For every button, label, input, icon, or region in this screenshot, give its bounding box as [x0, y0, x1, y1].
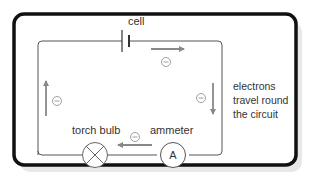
side-note-line-1: electrons [233, 80, 276, 92]
electron-icon [197, 94, 206, 103]
side-note-line-3: the circuit [233, 108, 278, 120]
cell-label: cell [128, 15, 145, 27]
torch-bulb-label: torch bulb [72, 124, 120, 136]
electron-icon [162, 58, 171, 67]
electron-icon [53, 97, 62, 106]
ammeter-label: ammeter [150, 124, 194, 136]
torch-bulb-symbol [83, 143, 108, 168]
ammeter-symbol-letter: A [169, 149, 177, 161]
circuit-diagram: cell torch bulb A ammeter [0, 0, 311, 182]
electron-icon [131, 133, 140, 142]
side-note-line-2: travel round [233, 94, 289, 106]
